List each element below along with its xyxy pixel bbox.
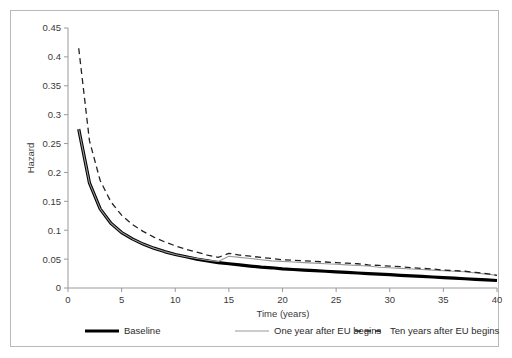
- x-axis-title: Time (years): [257, 308, 310, 319]
- chart-figure: 00.050.10.150.20.250.30.350.40.45 051015…: [0, 0, 512, 358]
- y-tick-label: 0: [56, 282, 61, 293]
- y-tick-label: 0.3: [48, 109, 61, 120]
- x-tick-label: 0: [65, 294, 70, 305]
- series-line: [79, 129, 497, 275]
- x-axis-ticks: 0510152025303540: [65, 288, 502, 305]
- hazard-line-chart: 00.050.10.150.20.250.30.350.40.45 051015…: [0, 0, 512, 358]
- y-tick-label: 0.15: [43, 196, 62, 207]
- y-tick-label: 0.25: [43, 138, 62, 149]
- legend-label: Ten years after EU begins: [390, 325, 500, 336]
- x-tick-label: 5: [119, 294, 124, 305]
- y-axis-ticks: 00.050.10.150.20.250.30.350.40.45: [43, 22, 69, 293]
- y-tick-label: 0.05: [43, 254, 62, 265]
- y-tick-label: 0.4: [48, 51, 61, 62]
- x-tick-label: 40: [492, 294, 503, 305]
- y-tick-label: 0.35: [43, 80, 62, 91]
- series-line: [79, 129, 497, 280]
- series-lines: [79, 48, 497, 280]
- y-axis-title: Hazard: [25, 143, 36, 174]
- y-tick-label: 0.45: [43, 22, 62, 33]
- x-tick-label: 35: [438, 294, 449, 305]
- x-tick-label: 10: [170, 294, 181, 305]
- x-tick-label: 20: [277, 294, 288, 305]
- chart-legend: BaselineOne year after EU beginsTen year…: [85, 325, 500, 336]
- x-tick-label: 15: [224, 294, 235, 305]
- y-tick-label: 0.1: [48, 225, 61, 236]
- y-tick-label: 0.2: [48, 167, 61, 178]
- series-line: [79, 48, 497, 275]
- x-tick-label: 25: [331, 294, 342, 305]
- legend-label: Baseline: [124, 325, 160, 336]
- x-tick-label: 30: [384, 294, 395, 305]
